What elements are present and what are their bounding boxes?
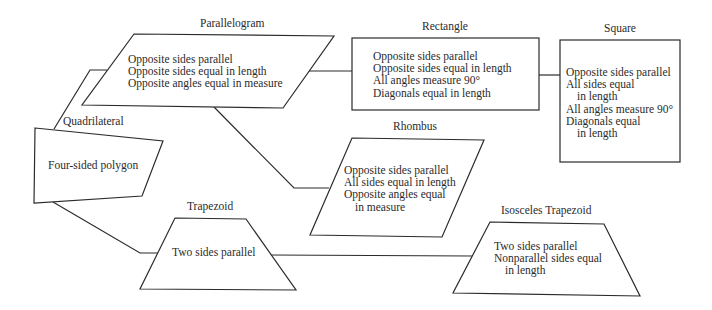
property-line: Diagonals equal in length — [373, 87, 512, 99]
property-line: in length — [566, 90, 673, 102]
property-line: Opposite sides equal in length — [373, 62, 512, 74]
property-line: Nonparallel sides equal — [494, 252, 602, 264]
edge-parallelogram-rhombus — [214, 107, 329, 188]
property-line: All angles measure 90° — [373, 74, 512, 86]
property-line: Opposite angles equal — [344, 188, 456, 200]
property-line: Two sides parallel — [172, 246, 256, 258]
rhombus-title: Rhombus — [393, 120, 437, 133]
property-line: in length — [494, 264, 602, 276]
isosceles-trapezoid-properties: Two sides parallel Nonparallel sides equ… — [494, 240, 602, 277]
isosceles-trapezoid-title: Isosceles Trapezoid — [501, 204, 591, 217]
rectangle-properties: Opposite sides parallel Opposite sides e… — [373, 50, 512, 99]
quadrilateral-title: Quadrilateral — [63, 115, 124, 128]
diagram-canvas — [0, 0, 712, 310]
rhombus-properties: Opposite sides parallel All sides equal … — [344, 164, 456, 213]
property-line: All sides equal in length — [344, 176, 456, 188]
property-line: Opposite sides equal in length — [128, 65, 283, 77]
property-line: in length — [566, 127, 673, 139]
trapezoid-properties: Two sides parallel — [172, 246, 256, 258]
edge-quadrilateral-trapezoid — [53, 202, 158, 253]
square-title: Square — [604, 22, 636, 35]
trapezoid-title: Trapezoid — [187, 200, 233, 213]
parallelogram-properties: Opposite sides parallel Opposite sides e… — [128, 53, 283, 90]
square-properties: Opposite sides parallel All sides equal … — [566, 66, 673, 139]
property-line: Opposite sides parallel — [373, 50, 512, 62]
property-line: All angles measure 90° — [566, 103, 673, 115]
property-line: All sides equal — [566, 78, 673, 90]
property-line: Opposite sides parallel — [128, 53, 283, 65]
property-line: Diagonals equal — [566, 115, 673, 127]
property-line: Opposite angles equal in measure — [128, 77, 283, 89]
edge-trapezoid-isosceles — [271, 255, 472, 256]
property-line: Opposite sides parallel — [566, 66, 673, 78]
parallelogram-title: Parallelogram — [200, 17, 265, 30]
property-line: Two sides parallel — [494, 240, 602, 252]
property-line: Four-sided polygon — [48, 159, 138, 171]
rectangle-title: Rectangle — [422, 20, 468, 33]
property-line: Opposite sides parallel — [344, 164, 456, 176]
quadrilateral-properties: Four-sided polygon — [48, 159, 138, 171]
property-line: in measure — [344, 201, 456, 213]
